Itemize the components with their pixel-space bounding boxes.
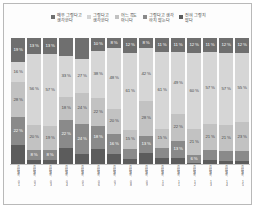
bar-segment — [11, 145, 24, 164]
bar-segment: 19 % — [11, 38, 24, 62]
axis-tick-label: 응답항목 01 — [16, 165, 20, 187]
bar-segment: 13 % — [171, 141, 184, 157]
axis-tick: 응답항목 02 — [26, 165, 42, 201]
bar-value-label: 22 % — [93, 110, 102, 114]
stacked-bar[interactable]: 11 %57 %21 % — [202, 38, 218, 164]
bar-value-label: 48 % — [109, 76, 118, 80]
stacked-bar[interactable]: 11 %49 %22 %13 % — [170, 38, 186, 164]
bar-value-label: 20 % — [29, 135, 38, 139]
legend-label: 전혀 그렇지 않다 — [185, 13, 205, 23]
axis-tick: 응답항목 13 — [202, 165, 218, 201]
bar-value-label: 24 % — [77, 106, 86, 110]
bar-segment: 42 % — [139, 48, 152, 101]
legend-item[interactable]: 그렇다고 생각 하지 않는다 — [143, 13, 173, 23]
bar-value-label: 15 % — [125, 137, 134, 141]
bar-segment: 13 % — [43, 38, 56, 54]
legend-item[interactable]: 그렇다고 생각한다 — [87, 13, 108, 23]
legend-swatch-icon — [87, 15, 91, 19]
bar-value-label: 16 % — [13, 70, 22, 74]
axis-tick-label: 응답항목 13 — [208, 165, 212, 187]
stacked-bar[interactable]: 10 %38 %22 %18 % — [90, 38, 106, 164]
bar-segment: 16 % — [11, 62, 24, 82]
legend-label: 그렇다고 생각한다 — [93, 13, 108, 23]
stacked-bar[interactable]: 12 %55 %23 % — [234, 38, 250, 164]
bar-value-label: 16 % — [109, 142, 118, 146]
bar-segment: 55 % — [235, 53, 248, 122]
bar-segment — [123, 149, 136, 159]
bar-value-label: 22 % — [61, 132, 70, 136]
bar-value-label: 60 % — [189, 89, 198, 93]
bar-segment — [107, 154, 120, 164]
axis-tick-label: 응답항목 10 — [160, 165, 164, 187]
bar-value-label: 15 % — [157, 136, 166, 140]
bar-segment: 48 % — [107, 48, 120, 108]
stacked-bar[interactable]: 11 %61 %15 % — [154, 38, 170, 164]
axis-tick-label: 응답항목 07 — [112, 165, 116, 187]
bar-segment: 60 % — [187, 53, 200, 129]
bar-segment: 21 % — [203, 124, 216, 150]
stacked-bar[interactable]: 19 %16 %28 %22 % — [10, 38, 26, 164]
stacked-bar[interactable]: 27 %24 %24 % — [74, 38, 90, 164]
bar-segment: 20 % — [27, 125, 40, 150]
bar-segment: 22 % — [171, 114, 184, 142]
bar-segment: 18 % — [59, 97, 72, 120]
bar-value-label: 42 % — [141, 72, 150, 76]
stacked-bar[interactable]: 12 %61 %15 % — [122, 38, 138, 164]
bar-value-label: 57 % — [221, 87, 230, 91]
bar-segment: 16 % — [107, 134, 120, 154]
stacked-bar[interactable]: 12 %60 %21 %6 % — [186, 38, 202, 164]
bar-value-label: 33 % — [61, 74, 70, 78]
legend-swatch-icon — [51, 15, 55, 19]
bar-segment: 28 % — [11, 82, 24, 117]
bar-segment — [75, 38, 88, 59]
axis-tick: 응답항목 01 — [10, 165, 26, 201]
legend-swatch-icon — [179, 15, 183, 19]
legend-item[interactable]: 전혀 그렇지 않다 — [179, 13, 205, 23]
bar-segment: 56 % — [27, 54, 40, 125]
bar-value-label: 12 % — [237, 43, 246, 47]
axis-tick-label: 응답항목 09 — [144, 165, 148, 187]
bar-segment: 61 % — [123, 53, 136, 130]
bar-value-label: 56 % — [29, 87, 38, 91]
bar-value-label: 57 % — [205, 86, 214, 90]
bar-value-label: 19 % — [13, 48, 22, 52]
bar-value-label: 13 % — [45, 44, 54, 48]
chart-container: 매우 그렇다고 생각한다그렇다고 생각한다어느 쪽도 아니다그렇다고 생각 하지… — [3, 3, 252, 205]
bar-segment: 8 % — [43, 150, 56, 160]
bar-value-label: 13 % — [141, 142, 150, 146]
bar-value-label: 8 % — [111, 41, 118, 45]
bar-segment — [203, 150, 216, 160]
bar-value-label: 22 % — [13, 129, 22, 133]
axis-tick-label: 응답항목 05 — [80, 165, 84, 187]
chart-legend: 매우 그렇다고 생각한다그렇다고 생각한다어느 쪽도 아니다그렇다고 생각 하지… — [4, 13, 253, 35]
bar-segment: 15 % — [123, 130, 136, 149]
legend-item[interactable]: 매우 그렇다고 생각한다 — [51, 13, 81, 23]
bar-segment: 57 % — [203, 52, 216, 124]
bar-value-label: 28 % — [141, 116, 150, 120]
stacked-bar[interactable]: 13 %57 %19 %8 % — [42, 38, 58, 164]
stacked-bar[interactable]: 13 %56 %20 %8 % — [26, 38, 42, 164]
bar-segment: 57 % — [43, 54, 56, 126]
stacked-bar[interactable]: 8 %48 %20 %16 % — [106, 38, 122, 164]
bar-value-label: 61 % — [125, 89, 134, 93]
bar-segment: 38 % — [91, 51, 104, 99]
legend-item[interactable]: 어느 쪽도 아니다 — [115, 13, 137, 23]
bar-segment: 27 % — [75, 59, 88, 93]
axis-tick: 응답항목 10 — [154, 165, 170, 201]
stacked-bar[interactable]: 8 %42 %28 %13 % — [138, 38, 154, 164]
legend-swatch-icon — [115, 15, 119, 19]
legend-label: 어느 쪽도 아니다 — [121, 13, 137, 23]
bar-value-label: 13 % — [29, 44, 38, 48]
axis-tick: 응답항목 09 — [138, 165, 154, 201]
legend-label: 매우 그렇다고 생각한다 — [57, 13, 81, 23]
bar-segment: 21 % — [187, 129, 200, 155]
stacked-bar[interactable]: 33 %18 %22 % — [58, 38, 74, 164]
bar-segment: 12 % — [123, 38, 136, 53]
legend-swatch-icon — [143, 15, 147, 19]
bar-value-label: 10 % — [93, 42, 102, 46]
axis-tick-label: 응답항목 06 — [96, 165, 100, 187]
bar-segment — [59, 148, 72, 164]
bar-segment: 13 % — [139, 136, 152, 152]
stacked-bar[interactable]: 12 %57 %21 % — [218, 38, 234, 164]
bar-segment: 18 % — [91, 126, 104, 149]
